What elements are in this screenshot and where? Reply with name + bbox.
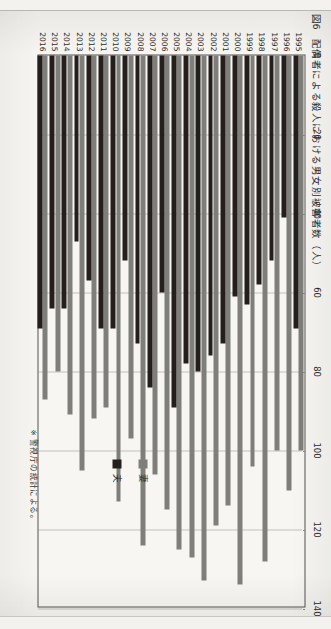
bar-group: 2004 (182, 55, 194, 606)
bar-夫 (281, 55, 286, 217)
bar-夫 (293, 55, 298, 328)
legend-swatch-icon (139, 459, 148, 468)
figure-title-text: 配偶者による殺人における男女別被害者数（人） (310, 38, 321, 271)
legend-label: 夫 (111, 473, 123, 482)
category-label: 2013 (74, 32, 83, 51)
bar-妻 (79, 55, 84, 470)
bar-夫 (74, 55, 79, 241)
bar-group: 2007 (146, 55, 158, 606)
chart-legend: 妻夫 (97, 459, 149, 482)
bar-group: 1998 (255, 55, 267, 606)
category-label: 2006 (159, 32, 168, 51)
legend-label: 妻 (137, 473, 149, 482)
category-label: 2010 (111, 32, 120, 51)
axis-tick-label: 120 (311, 521, 321, 537)
bar-group: 2014 (60, 55, 72, 606)
bar-group: 2001 (219, 55, 231, 606)
scan-page: 図6配偶者による殺人における男女別被害者数（人） 020406080100120… (0, 0, 331, 629)
bar-妻 (67, 55, 72, 414)
bar-group: 1995 (292, 55, 304, 606)
bar-group: 2013 (73, 55, 85, 606)
bar-group: 2016 (36, 55, 48, 606)
bar-妻 (250, 55, 255, 466)
bar-妻 (55, 55, 60, 371)
category-label: 2007 (147, 32, 156, 51)
bar-夫 (147, 55, 152, 387)
axis-tick-label: 140 (311, 600, 321, 616)
bar-group: 2015 (48, 55, 60, 606)
category-label: 2000 (233, 32, 242, 51)
legend-swatch-icon (113, 459, 122, 468)
bar-妻 (213, 55, 218, 525)
bar-夫 (256, 55, 261, 284)
category-label: 2011 (99, 32, 108, 51)
bar-妻 (298, 55, 303, 450)
bar-夫 (159, 55, 164, 292)
legend-item: 夫 (111, 459, 123, 482)
category-label: 2003 (196, 32, 205, 51)
category-label: 1999 (245, 32, 254, 51)
bar-妻 (225, 55, 230, 505)
bar-妻 (152, 55, 157, 474)
figure-title: 図6配偶者による殺人における男女別被害者数（人） (309, 13, 323, 271)
gridline (38, 608, 304, 609)
bar-group: 2011 (97, 55, 109, 606)
bar-妻 (91, 55, 96, 418)
axis-tick-label: 80 (311, 366, 321, 377)
figure: 図6配偶者による殺人における男女別被害者数（人） 020406080100120… (0, 0, 331, 628)
bar-夫 (269, 55, 274, 260)
bar-group: 2002 (207, 55, 219, 606)
bar-夫 (110, 55, 115, 328)
bar-group: 1997 (267, 55, 279, 606)
bar-夫 (171, 55, 176, 407)
category-label: 2014 (62, 32, 71, 51)
bar-夫 (208, 55, 213, 355)
bar-夫 (220, 55, 225, 343)
bar-妻 (286, 55, 291, 490)
category-label: 2002 (208, 32, 217, 51)
bar-夫 (244, 55, 249, 304)
category-label: 1995 (293, 32, 302, 51)
bar-夫 (86, 55, 91, 280)
axis-tick-label: 20 (311, 129, 321, 140)
category-label: 2012 (86, 32, 95, 51)
legend-item: 妻 (137, 459, 149, 482)
bar-group: 2005 (170, 55, 182, 606)
bar-group: 2000 (231, 55, 243, 606)
category-label: 2009 (123, 32, 132, 51)
category-label: 2008 (135, 32, 144, 51)
category-label: 1997 (269, 32, 278, 51)
bar-妻 (164, 55, 169, 509)
figure-note: ※ 警視庁の統計による。 (28, 429, 39, 523)
bar-妻 (116, 55, 121, 501)
bar-夫 (135, 55, 140, 343)
bar-妻 (201, 55, 206, 580)
category-label: 2015 (50, 32, 59, 51)
bar-group: 2003 (194, 55, 206, 606)
bar-夫 (122, 55, 127, 260)
bar-妻 (237, 55, 242, 584)
category-label: 2005 (172, 32, 181, 51)
axis-tick-label: 0 (311, 52, 321, 57)
paper-sheet: 図6配偶者による殺人における男女別被害者数（人） 020406080100120… (0, 10, 331, 617)
bar-group: 2010 (109, 55, 121, 606)
category-label: 2001 (220, 32, 229, 51)
bar-妻 (42, 55, 47, 399)
bar-夫 (61, 55, 66, 308)
bar-夫 (37, 55, 42, 328)
bar-夫 (195, 55, 200, 371)
category-label: 2004 (184, 32, 193, 51)
bar-夫 (183, 55, 188, 363)
bar-妻 (274, 55, 279, 450)
bar-group: 2009 (121, 55, 133, 606)
bar-妻 (103, 55, 108, 407)
bar-group: 1996 (280, 55, 292, 606)
bar-妻 (262, 55, 267, 561)
bar-group: 2008 (133, 55, 145, 606)
rotated-figure-wrapper: 図6配偶者による殺人における男女別被害者数（人） 020406080100120… (0, 0, 331, 628)
bar-夫 (49, 55, 54, 308)
bar-夫 (232, 55, 237, 296)
bar-妻 (189, 55, 194, 557)
category-label: 1998 (257, 32, 266, 51)
bar-group: 2012 (85, 55, 97, 606)
